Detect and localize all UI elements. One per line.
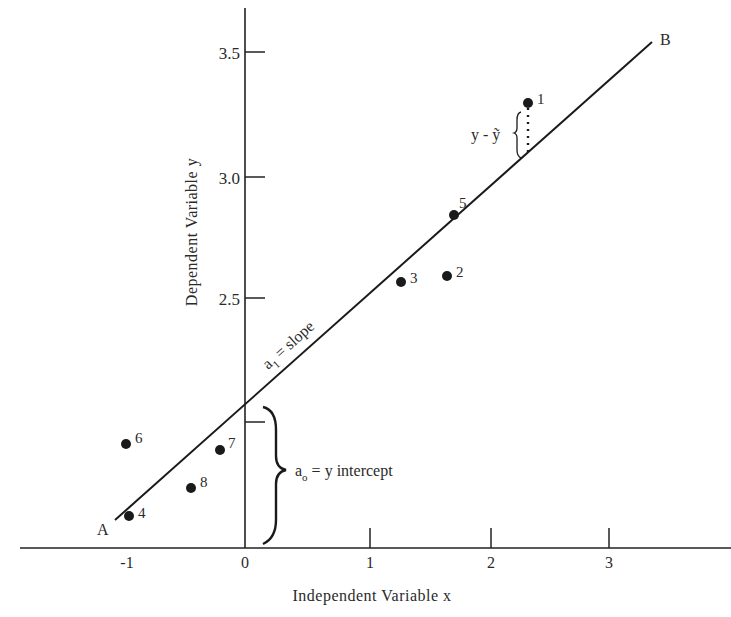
data-point-1	[523, 98, 533, 108]
x-tick-label: 3	[605, 554, 613, 571]
data-point-3	[396, 277, 406, 287]
data-point-8	[186, 483, 196, 493]
y-tick-label: 3.5	[219, 44, 240, 63]
data-point-2	[442, 271, 452, 281]
point-label-2: 2	[456, 264, 464, 280]
point-label-7: 7	[228, 435, 236, 451]
point-label-8: 8	[200, 474, 208, 490]
x-axis-label: Independent Variable x	[292, 587, 451, 605]
intercept-annotation: ao = y intercept	[295, 462, 393, 483]
x-ticks	[370, 528, 609, 548]
intercept-brace	[263, 407, 286, 544]
point-label-3: 3	[410, 270, 418, 286]
point-label-4: 4	[138, 505, 146, 521]
data-point-7	[215, 445, 225, 455]
line-end-label: B	[660, 31, 671, 48]
point-label-1: 1	[537, 91, 545, 107]
residual-label: y - ỹ	[471, 126, 500, 144]
regression-chart: 3.5 3.0 2.5 -1 0 1 2 3 Independent Varia…	[0, 0, 731, 617]
y-tick-label: 2.5	[219, 290, 240, 309]
x-tick-label: 1	[366, 554, 374, 571]
point-label-6: 6	[135, 430, 143, 446]
x-tick-label: -1	[120, 554, 133, 571]
y-ticks	[245, 52, 265, 422]
residual-brace	[514, 112, 521, 158]
data-point-4	[124, 511, 134, 521]
line-start-label: A	[97, 521, 109, 538]
point-label-5: 5	[459, 195, 467, 211]
x-tick-label: 0	[241, 554, 249, 571]
y-axis-label: Dependent Variable y	[183, 158, 201, 306]
x-tick-label: 2	[487, 554, 495, 571]
y-tick-label: 3.0	[219, 169, 240, 188]
data-point-6	[121, 439, 131, 449]
data-point-5	[449, 210, 459, 220]
